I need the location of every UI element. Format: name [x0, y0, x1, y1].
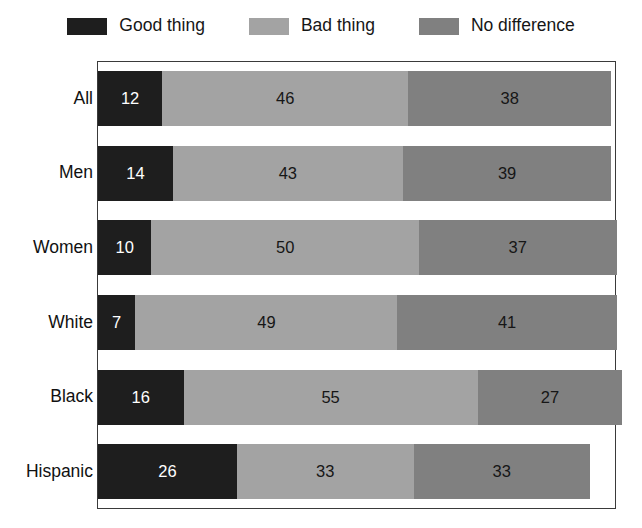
- chart-row: Black165527: [0, 370, 642, 425]
- chart-row: Hispanic263333: [0, 444, 642, 499]
- bar-segment-good: 12: [98, 71, 162, 126]
- row-label-all: All: [0, 90, 93, 108]
- stacked-bar: 165527: [98, 370, 622, 425]
- legend-swatch-bad-thing: [249, 18, 289, 35]
- bar-segment-bad: 50: [151, 220, 418, 275]
- chart-row: White74941: [0, 295, 642, 350]
- bar-segment-value: 33: [316, 463, 334, 480]
- bar-segment-value: 37: [509, 239, 527, 256]
- legend-item-good-thing: Good thing: [67, 17, 205, 35]
- chart-row: Men144339: [0, 146, 642, 201]
- bar-segment-nodiff: 33: [414, 444, 590, 499]
- bar-segment-bad: 33: [237, 444, 413, 499]
- bar-segment-good: 16: [98, 370, 184, 425]
- bar-segment-bad: 46: [162, 71, 408, 126]
- bar-segment-value: 10: [116, 239, 134, 256]
- bar-segment-value: 16: [132, 389, 150, 406]
- bar-segment-nodiff: 39: [403, 146, 612, 201]
- chart-legend: Good thing Bad thing No difference: [0, 0, 642, 52]
- bar-segment-value: 14: [126, 165, 144, 182]
- bar-segment-good: 14: [98, 146, 173, 201]
- legend-label-good-thing: Good thing: [119, 17, 205, 35]
- stacked-bar-rows: All124638Men144339Women105037White74941B…: [0, 61, 642, 509]
- row-label-black: Black: [0, 388, 93, 406]
- legend-swatch-good-thing: [67, 18, 107, 35]
- legend-item-bad-thing: Bad thing: [249, 17, 375, 35]
- bar-segment-value: 12: [121, 90, 139, 107]
- bar-segment-nodiff: 41: [397, 295, 616, 350]
- legend-label-no-difference: No difference: [471, 17, 575, 35]
- bar-segment-value: 55: [321, 389, 339, 406]
- stacked-bar: 144339: [98, 146, 611, 201]
- bar-segment-value: 33: [493, 463, 511, 480]
- bar-segment-value: 41: [498, 314, 516, 331]
- bar-segment-value: 26: [158, 463, 176, 480]
- bar-segment-value: 27: [541, 389, 559, 406]
- bar-segment-nodiff: 27: [478, 370, 622, 425]
- bar-segment-value: 43: [279, 165, 297, 182]
- bar-segment-value: 49: [257, 314, 275, 331]
- bar-segment-bad: 55: [184, 370, 478, 425]
- bar-segment-value: 38: [501, 90, 519, 107]
- bar-segment-good: 26: [98, 444, 237, 499]
- row-label-hispanic: Hispanic: [0, 463, 93, 481]
- stacked-bar: 124638: [98, 71, 611, 126]
- row-label-women: Women: [0, 239, 93, 257]
- chart-row: Women105037: [0, 220, 642, 275]
- bar-segment-value: 39: [498, 165, 516, 182]
- stacked-bar: 105037: [98, 220, 617, 275]
- bar-segment-value: 46: [276, 90, 294, 107]
- stacked-bar: 74941: [98, 295, 617, 350]
- bar-segment-bad: 43: [173, 146, 403, 201]
- legend-swatch-no-difference: [419, 18, 459, 35]
- stacked-bar: 263333: [98, 444, 590, 499]
- bar-segment-good: 7: [98, 295, 135, 350]
- bar-segment-value: 50: [276, 239, 294, 256]
- bar-segment-value: 7: [112, 314, 121, 331]
- bar-segment-good: 10: [98, 220, 151, 275]
- chart-row: All124638: [0, 71, 642, 126]
- legend-item-no-difference: No difference: [419, 17, 575, 35]
- row-label-men: Men: [0, 164, 93, 182]
- bar-segment-nodiff: 37: [419, 220, 617, 275]
- bar-segment-nodiff: 38: [408, 71, 611, 126]
- row-label-white: White: [0, 314, 93, 332]
- legend-label-bad-thing: Bad thing: [301, 17, 375, 35]
- bar-segment-bad: 49: [135, 295, 397, 350]
